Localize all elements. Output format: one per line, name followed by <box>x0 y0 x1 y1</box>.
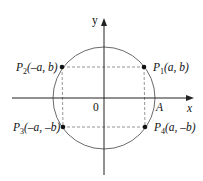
y-axis-arrow-icon <box>101 18 107 26</box>
x-axis-label: x <box>186 102 193 114</box>
point-p3 <box>61 125 66 130</box>
point-a-label: A <box>155 101 164 113</box>
p1-label: P1(a, b) <box>152 61 189 76</box>
diagram-canvas: y x 0 A P1(a, b) P2(–a, b) P3(–a, –b) P4… <box>0 0 203 181</box>
p3-label: P3(–a, –b) <box>12 121 61 136</box>
x-axis-arrow-icon <box>186 95 194 101</box>
point-p2 <box>60 65 65 70</box>
origin-label: 0 <box>93 101 99 113</box>
p2-label: P2(–a, b) <box>15 61 58 76</box>
point-p1 <box>142 65 147 70</box>
y-axis-label: y <box>92 14 98 27</box>
point-p4 <box>143 125 148 130</box>
p4-label: P4(a, –b) <box>153 121 196 136</box>
